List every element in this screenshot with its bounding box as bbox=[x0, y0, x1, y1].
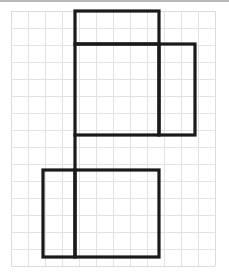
net-face-top-face bbox=[75, 11, 159, 44]
figure-canvas bbox=[0, 0, 229, 276]
net-face-bottom-face bbox=[75, 170, 159, 257]
grid-net-figure bbox=[0, 0, 229, 276]
net-outline bbox=[43, 11, 195, 257]
net-face-left-face bbox=[43, 170, 75, 257]
net-face-front-face bbox=[75, 44, 159, 135]
